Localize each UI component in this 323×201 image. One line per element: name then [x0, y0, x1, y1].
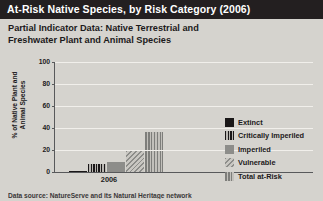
y-axis-tick-label: 40 [22, 124, 50, 131]
chart-panel: At-Risk Native Species, by Risk Category… [0, 0, 323, 201]
legend-swatch-icon [225, 158, 234, 167]
legend-item: Total at-Risk [225, 171, 323, 184]
gridline [55, 62, 313, 63]
legend-label: Vulnerable [238, 158, 276, 167]
legend-item: Critically Imperiled [225, 130, 323, 143]
y-axis-tick-label: 60 [22, 102, 50, 109]
axis-tickmark [52, 128, 55, 129]
title-bar: At-Risk Native Species, by Risk Category… [0, 0, 323, 19]
page-title: At-Risk Native Species, by Risk Category… [7, 3, 250, 15]
legend-swatch-icon [225, 118, 234, 127]
bar-extinct [69, 171, 87, 172]
legend-item: Imperiled [225, 144, 323, 157]
y-axis-tick-label: 0 [22, 168, 50, 175]
legend-swatch-icon [225, 172, 234, 181]
chart-area: % of Native Plant and Animal Species 100… [0, 55, 323, 181]
y-axis-tick-label: 80 [22, 80, 50, 87]
legend-item: Extinct [225, 117, 323, 130]
legend-swatch-icon [225, 145, 234, 154]
chart-subtitle: Partial Indicator Data: Native Terrestri… [8, 23, 238, 46]
legend-label: Total at-Risk [238, 172, 282, 181]
legend: ExtinctCritically ImperiledImperiledVuln… [225, 117, 323, 184]
legend-label: Extinct [238, 118, 263, 127]
legend-swatch-icon [225, 131, 234, 140]
bar-vulnerable [126, 151, 144, 172]
bar-imperiled [107, 162, 125, 172]
axis-tickmark [52, 84, 55, 85]
bar-critically-imperiled [88, 164, 106, 172]
legend-item: Vulnerable [225, 157, 323, 170]
axis-tickmark [52, 106, 55, 107]
source-note: Data source: NatureServe and its Natural… [8, 192, 308, 199]
y-axis-tick-label: 20 [22, 146, 50, 153]
axis-tickmark [52, 172, 55, 173]
gridline [55, 84, 313, 85]
axis-tickmark [52, 62, 55, 63]
x-axis-label: 2006 [54, 175, 164, 184]
axis-tickmark [52, 150, 55, 151]
legend-label: Critically Imperiled [238, 131, 304, 140]
y-axis-tick-label: 100 [22, 58, 50, 65]
gridline [55, 106, 313, 107]
legend-label: Imperiled [238, 145, 271, 154]
bar-total-at-risk [145, 132, 163, 172]
y-axis-ticks: 100806040200 [22, 55, 50, 175]
